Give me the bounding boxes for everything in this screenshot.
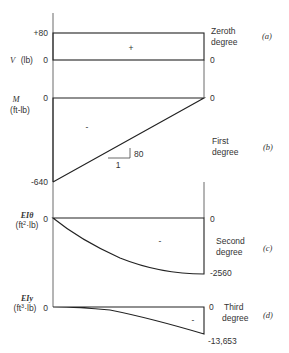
slope-curve	[53, 218, 204, 274]
slope-rise-value: 80	[134, 149, 144, 159]
slope-axis-unit: (ft2·lb)	[16, 220, 39, 230]
moment-zero-left: 0	[43, 93, 48, 103]
panel-d-deflection: 0 EIy (ft3·lb) - 0 Third degree (d) -13,…	[14, 294, 274, 346]
panel-b-moment: 0 -640 M (ft-lb) - 80 1 0 First degree (…	[10, 93, 273, 187]
panel-a-shear: +80 0 V (lb) + 0 Zeroth degree (a)	[10, 26, 272, 66]
slope-min-value: -2560	[210, 268, 232, 278]
moment-zero-right: 0	[210, 93, 215, 103]
deflection-axis-symbol: EIy	[20, 294, 33, 303]
shear-top-value: +80	[34, 28, 49, 38]
degree-label-c-line1: Second	[216, 236, 245, 246]
moment-axis-symbol: M	[11, 94, 20, 104]
slope-zero-right: 0	[210, 214, 215, 224]
slope-sign: -	[159, 236, 162, 246]
deflection-min-value: -13,653	[208, 336, 237, 346]
degree-label-d-line1: Third	[224, 302, 244, 312]
degree-label-c-line2: degree	[216, 247, 243, 257]
deflection-zero-left: 0	[43, 303, 48, 313]
degree-label-b-line1: First	[212, 136, 229, 146]
slope-zero-left: 0	[43, 214, 48, 224]
shear-zero-right: 0	[210, 55, 215, 65]
deflection-curve	[53, 307, 204, 334]
degree-label-a-line1: Zeroth	[211, 26, 236, 36]
slope-axis-symbol: EIθ	[20, 211, 34, 220]
panel-c-slope: 0 EIθ (ft2·lb) - 0 Second degree (c) -25…	[16, 211, 273, 278]
slope-run-value: 1	[116, 160, 121, 170]
shear-sign: +	[129, 43, 134, 53]
panel-tag-b: (b)	[263, 142, 273, 152]
deflection-zero-right: 0	[209, 302, 214, 312]
moment-sign: -	[86, 122, 89, 132]
shear-zero-left: 0	[43, 55, 48, 65]
shear-axis-label: V (lb)	[10, 49, 33, 66]
panel-tag-d: (d)	[263, 310, 273, 320]
panel-tag-a: (a)	[262, 31, 272, 41]
degree-label-a-line2: degree	[211, 37, 238, 47]
deflection-axis-unit: (ft3·lb)	[14, 303, 37, 313]
panel-tag-c: (c)	[263, 243, 273, 253]
moment-min-value: -640	[31, 177, 48, 187]
degree-label-b-line2: degree	[212, 147, 239, 157]
deflection-sign: -	[192, 315, 195, 325]
moment-triangle	[53, 98, 204, 182]
degree-label-d-line2: degree	[222, 313, 249, 323]
beam-diagram: +80 0 V (lb) + 0 Zeroth degree (a) 0 -64…	[0, 0, 289, 353]
moment-axis-unit: (ft-lb)	[10, 105, 30, 115]
